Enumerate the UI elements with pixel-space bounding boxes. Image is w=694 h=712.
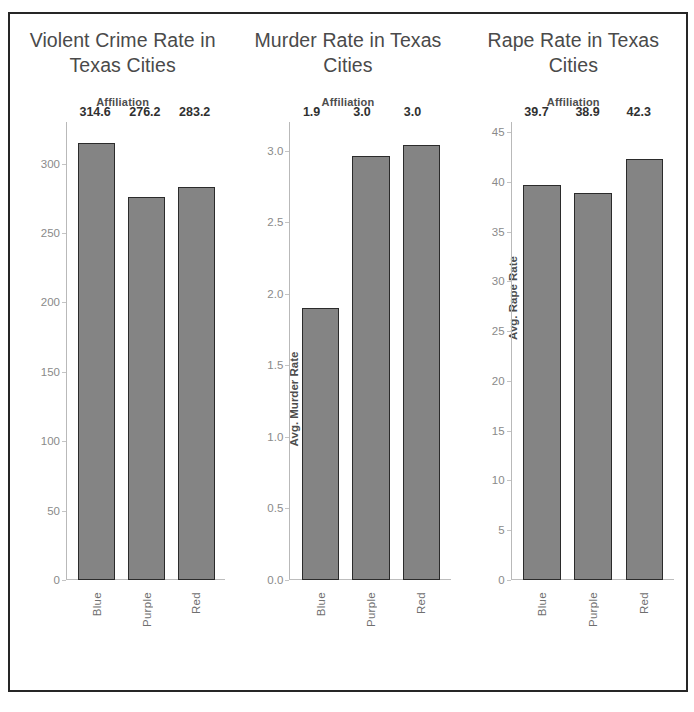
y-axis-tick-mark — [62, 580, 66, 581]
bar-value-label: 42.3 — [627, 105, 651, 119]
bar-slot: 283.2Red — [172, 122, 222, 580]
y-axis-tick-label: 200 — [41, 296, 60, 308]
y-axis-tick-mark — [507, 381, 511, 382]
x-axis-tick-label: Blue — [315, 592, 327, 616]
y-axis-tick-mark — [285, 365, 289, 366]
y-axis-tick-label: 0 — [54, 574, 60, 586]
y-axis-tick-label: 2.0 — [267, 288, 283, 300]
bar-value-label: 3.0 — [404, 105, 421, 119]
y-axis-tick-mark — [285, 222, 289, 223]
x-axis-tick-label: Purple — [365, 592, 377, 627]
bar[interactable]: 3.0 — [352, 156, 389, 580]
y-axis-tick-label: 25 — [492, 325, 505, 337]
bar[interactable]: 38.9 — [574, 193, 612, 580]
bar[interactable]: 3.0 — [403, 145, 440, 580]
bar-slot: 1.9Blue — [295, 122, 345, 580]
x-axis-tick-label: Purple — [587, 592, 599, 627]
x-axis-tick-label: Blue — [536, 592, 548, 616]
bar-value-label: 314.6 — [79, 105, 110, 119]
y-axis-tick-label: 1.0 — [267, 431, 283, 443]
bar[interactable]: 39.7 — [523, 185, 561, 580]
y-axis-tick-label: 150 — [41, 366, 60, 378]
y-axis-tick-mark — [507, 480, 511, 481]
y-axis-tick-mark — [285, 437, 289, 438]
bar-slot: 3.0Purple — [346, 122, 396, 580]
y-axis-tick-mark — [62, 511, 66, 512]
bar-group: 1.9Blue3.0Purple3.0Red — [295, 122, 446, 580]
bar-value-label: 39.7 — [524, 105, 548, 119]
bar-slot: 276.2Purple — [122, 122, 172, 580]
y-axis-tick-mark — [507, 331, 511, 332]
legend-title: Affiliation — [235, 96, 460, 108]
plot-area: 0.00.51.01.52.02.53.01.9Blue3.0Purple3.0… — [289, 122, 450, 580]
plot-area: 050100150200250300314.6Blue276.2Purple28… — [66, 122, 225, 580]
y-axis-tick-mark — [62, 164, 66, 165]
x-axis-tick-label: Blue — [91, 592, 103, 616]
y-axis-tick-mark — [62, 233, 66, 234]
y-axis-tick-label: 100 — [41, 435, 60, 447]
x-axis-tick-label: Purple — [141, 592, 153, 627]
bar-slot: 314.6Blue — [72, 122, 122, 580]
y-axis-tick-label: 40 — [492, 176, 505, 188]
bar-value-label: 3.0 — [353, 105, 370, 119]
chart-panel-3: Rape Rate in Texas CitiesAffiliationAvg.… — [461, 14, 686, 690]
y-axis-line — [511, 122, 512, 580]
y-axis-tick-mark — [507, 431, 511, 432]
y-axis-line — [66, 122, 67, 580]
page-border: Violent Crime Rate in Texas CitiesAffili… — [8, 12, 688, 692]
y-axis-tick-label: 0 — [498, 574, 504, 586]
y-axis-tick-mark — [507, 281, 511, 282]
bar-group: 39.7Blue38.9Purple42.3Red — [517, 122, 670, 580]
legend-title: Affiliation — [461, 96, 686, 108]
y-axis-tick-label: 3.0 — [267, 145, 283, 157]
y-axis-tick-mark — [285, 151, 289, 152]
bar-slot: 38.9Purple — [568, 122, 619, 580]
y-axis-tick-label: 2.5 — [267, 216, 283, 228]
bar-value-label: 283.2 — [179, 105, 210, 119]
bar-slot: 3.0Red — [396, 122, 446, 580]
y-axis-tick-label: 300 — [41, 158, 60, 170]
chart-panel-1: Violent Crime Rate in Texas CitiesAffili… — [10, 14, 235, 690]
y-axis-tick-label: 250 — [41, 227, 60, 239]
chart-panel-group: Violent Crime Rate in Texas CitiesAffili… — [10, 14, 686, 690]
bar-group: 314.6Blue276.2Purple283.2Red — [72, 122, 221, 580]
y-axis-tick-label: 5 — [498, 524, 504, 536]
y-axis-tick-label: 10 — [492, 474, 505, 486]
bar-slot: 39.7Blue — [517, 122, 568, 580]
y-axis-tick-label: 0.5 — [267, 502, 283, 514]
plot-area: 05101520253035404539.7Blue38.9Purple42.3… — [511, 122, 674, 580]
chart-title: Rape Rate in Texas Cities — [465, 28, 682, 78]
bar[interactable]: 314.6 — [78, 143, 115, 580]
y-axis-tick-label: 30 — [492, 275, 505, 287]
y-axis-tick-mark — [507, 530, 511, 531]
y-axis-line — [289, 122, 290, 580]
y-axis-tick-mark — [285, 508, 289, 509]
y-axis-tick-label: 1.5 — [267, 359, 283, 371]
bar[interactable]: 42.3 — [626, 159, 664, 580]
bar[interactable]: 1.9 — [302, 308, 339, 580]
x-axis-tick-label: Red — [415, 592, 427, 614]
y-axis-tick-label: 20 — [492, 375, 505, 387]
y-axis-tick-mark — [62, 302, 66, 303]
chart-title: Murder Rate in Texas Cities — [239, 28, 456, 78]
chart-title: Violent Crime Rate in Texas Cities — [14, 28, 231, 78]
y-axis-tick-mark — [62, 441, 66, 442]
y-axis-tick-mark — [285, 294, 289, 295]
chart-panel-2: Murder Rate in Texas CitiesAffiliationAv… — [235, 14, 460, 690]
y-axis-tick-label: 45 — [492, 126, 505, 138]
y-axis-tick-mark — [62, 372, 66, 373]
bar-slot: 42.3Red — [619, 122, 670, 580]
y-axis-tick-label: 35 — [492, 226, 505, 238]
x-axis-tick-label: Red — [190, 592, 202, 614]
x-axis-tick-label: Red — [638, 592, 650, 614]
y-axis-tick-mark — [507, 132, 511, 133]
bar[interactable]: 283.2 — [178, 187, 215, 580]
bar[interactable]: 276.2 — [128, 197, 165, 580]
y-axis-tick-label: 0.0 — [267, 574, 283, 586]
y-axis-tick-label: 50 — [47, 505, 60, 517]
bar-value-label: 1.9 — [303, 105, 320, 119]
y-axis-tick-mark — [507, 182, 511, 183]
y-axis-tick-label: 15 — [492, 425, 505, 437]
y-axis-tick-mark — [285, 580, 289, 581]
bar-value-label: 38.9 — [575, 105, 599, 119]
